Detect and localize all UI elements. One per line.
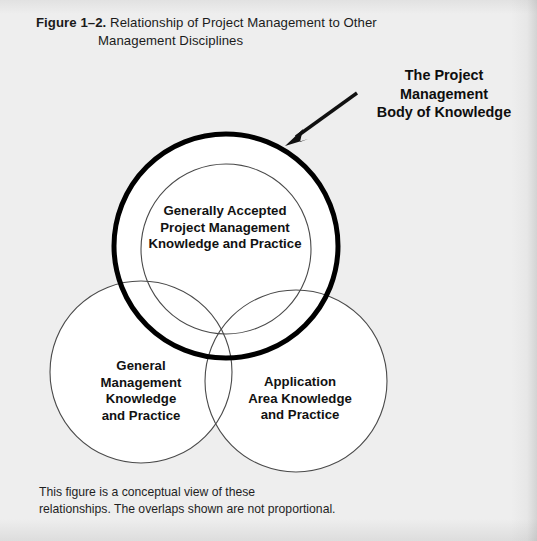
label-application-area-line-1: Application <box>229 374 371 391</box>
label-generally-accepted-line-2: Project Management <box>124 220 326 237</box>
footnote-line-1: This figure is a conceptual view of thes… <box>39 484 399 501</box>
label-general-management-line-2: Management <box>71 375 211 392</box>
label-general-management: General Management Knowledge and Practic… <box>71 358 211 424</box>
callout-line-2: Management <box>358 85 530 104</box>
label-generally-accepted: Generally Accepted Project Management Kn… <box>124 203 326 253</box>
label-generally-accepted-line-1: Generally Accepted <box>124 203 326 220</box>
label-application-area-line-2: Area Knowledge <box>229 391 371 408</box>
label-generally-accepted-line-3: Knowledge and Practice <box>124 236 326 253</box>
label-general-management-line-4: and Practice <box>71 408 211 425</box>
callout-label: The Project Management Body of Knowledge <box>358 66 530 122</box>
callout-line-1: The Project <box>358 66 530 85</box>
callout-line-3: Body of Knowledge <box>358 103 530 122</box>
callout-arrow <box>285 93 357 146</box>
footnote-line-2: relationships. The overlaps shown are no… <box>39 501 399 518</box>
figure-page: Figure 1–2. Relationship of Project Mana… <box>0 0 537 541</box>
figure-footnote: This figure is a conceptual view of thes… <box>39 484 399 517</box>
label-application-area-line-3: and Practice <box>229 407 371 424</box>
label-general-management-line-3: Knowledge <box>71 391 211 408</box>
label-application-area: Application Area Knowledge and Practice <box>229 374 371 424</box>
label-general-management-line-1: General <box>71 358 211 375</box>
